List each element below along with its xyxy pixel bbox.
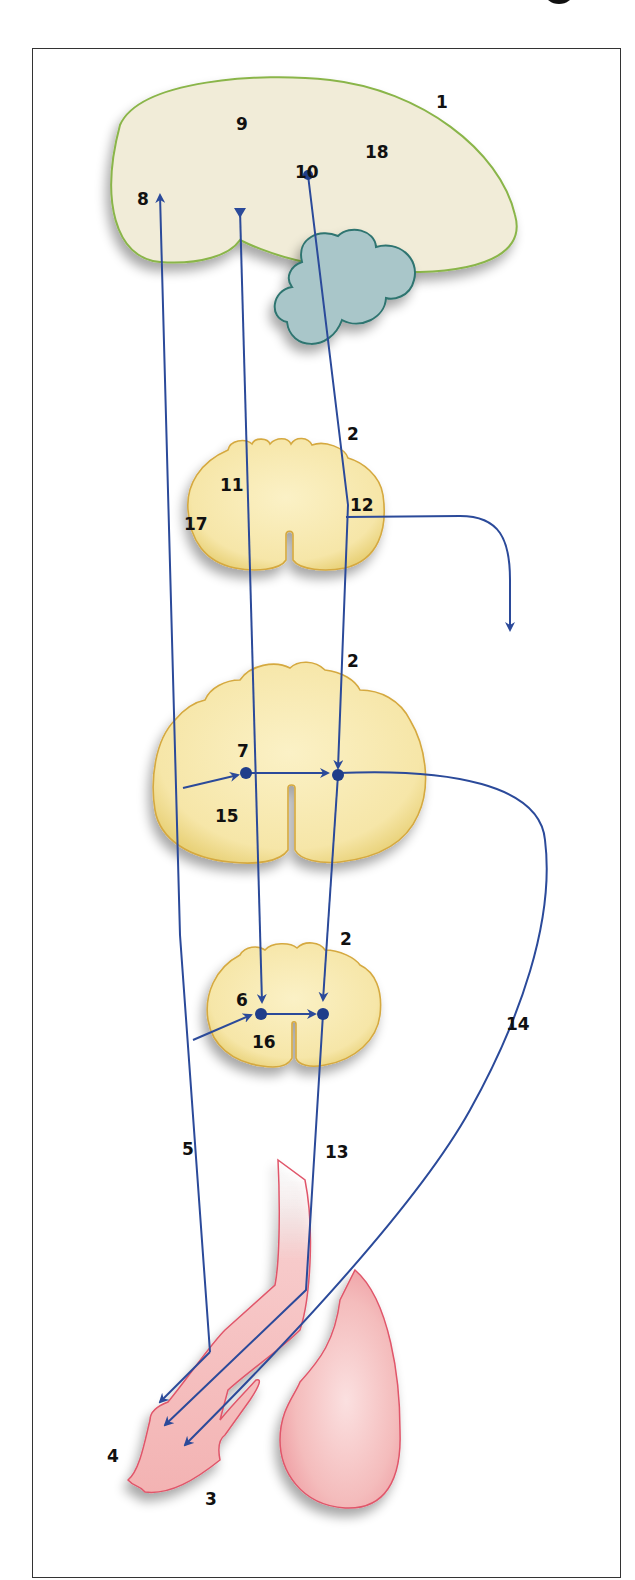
label-10: 10 [295, 162, 319, 182]
label-9: 9 [236, 114, 248, 134]
label-13: 13 [325, 1142, 349, 1162]
label-6: 6 [236, 990, 248, 1010]
label-11: 11 [220, 475, 244, 495]
label-2-lower: 2 [340, 929, 352, 949]
label-3: 3 [205, 1489, 217, 1509]
label-2-upper: 2 [347, 424, 359, 444]
label-7: 7 [237, 741, 249, 761]
pathway-descending-left [240, 210, 262, 1002]
spinal-cord-section-sacral [207, 943, 380, 1067]
neural-pathway-diagram: 1 9 18 10 8 2 11 12 17 2 7 15 2 6 16 14 … [0, 0, 635, 1580]
synapse-6-right [317, 1008, 329, 1020]
synapse-6-left [255, 1008, 267, 1020]
label-4: 4 [107, 1446, 119, 1466]
label-5: 5 [182, 1139, 194, 1159]
label-15: 15 [215, 806, 239, 826]
label-1: 1 [436, 92, 448, 112]
synapse-7-left [240, 767, 252, 779]
label-8: 8 [137, 189, 149, 209]
label-18: 18 [365, 142, 389, 162]
label-2-middle: 2 [347, 651, 359, 671]
label-14: 14 [506, 1014, 530, 1034]
label-17: 17 [184, 514, 208, 534]
label-12: 12 [350, 495, 374, 515]
synapse-7-right [332, 769, 344, 781]
label-16: 16 [252, 1032, 276, 1052]
spinal-cord-section-thoracic [153, 662, 425, 863]
